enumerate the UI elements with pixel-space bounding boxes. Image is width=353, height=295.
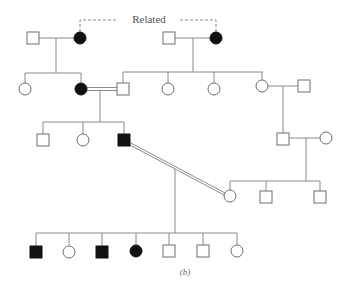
male-affected [118,134,130,146]
female-unaffected [231,245,243,257]
male-unaffected [260,191,272,203]
consanguineous-line [129,142,225,193]
female-affected [74,32,86,44]
female-unaffected [77,134,89,146]
female-unaffected [162,83,174,95]
male-unaffected [163,245,175,257]
male-unaffected [163,32,175,44]
female-affected [210,32,222,44]
pedigree-diagram: Related [0,0,353,295]
related-label: Related [132,13,166,25]
male-affected [96,246,108,258]
female-unaffected [224,190,236,202]
female-affected [75,83,87,95]
female-unaffected [320,132,332,144]
female-unaffected [208,83,220,95]
male-unaffected [27,32,39,44]
female-unaffected [19,83,31,95]
male-affected [30,246,42,258]
related-connector: Related [80,13,216,32]
female-unaffected [256,80,268,92]
male-unaffected [197,245,209,257]
male-unaffected [277,133,289,145]
female-affected [130,245,142,257]
male-unaffected [37,134,49,146]
female-unaffected [63,246,75,258]
male-unaffected [117,83,129,95]
male-unaffected [298,80,310,92]
male-unaffected [314,191,326,203]
figure-caption: (b) [180,267,191,277]
